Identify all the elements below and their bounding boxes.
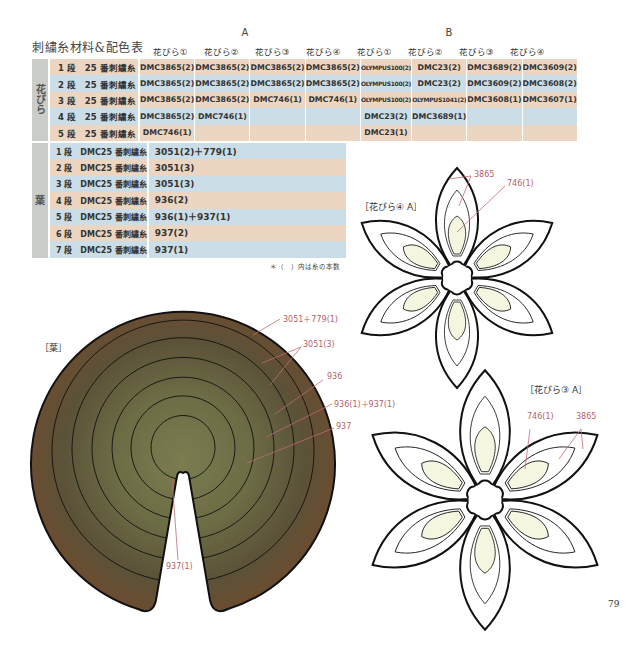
leaf-annotation: 937(1) <box>166 562 193 571</box>
petal3a-diagram-label: ［花びら③ A］ <box>525 383 587 396</box>
leaf-annotation: 936 <box>327 372 342 381</box>
petal4a-diagram-label: ［花びら④ A］ <box>360 200 422 213</box>
leaf-annotation: 937 <box>336 422 351 431</box>
petal3a-annotation: 3865 <box>576 412 596 421</box>
leaf-annotation: 3051(3) <box>303 340 335 349</box>
petal4a-annotation: 3865 <box>474 170 494 179</box>
petal4a-annotation: 746(1) <box>507 179 534 188</box>
leaf-annotation: 3051＋779(1) <box>283 313 338 324</box>
petal3a-annotation: 746(1) <box>527 412 554 421</box>
page-number: 79 <box>608 599 619 609</box>
leaf-diagram-label: ［葉］ <box>40 341 67 354</box>
leaf-annotation: 936(1)＋937(1) <box>334 398 395 409</box>
petal3a-diagram <box>360 370 610 630</box>
diagram-canvas <box>0 0 631 651</box>
